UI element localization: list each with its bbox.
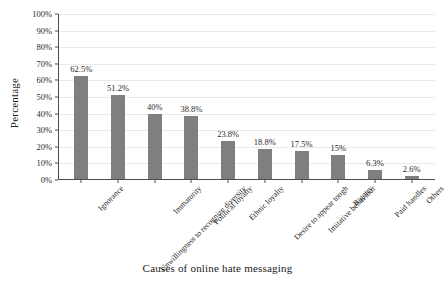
x-axis-category-label: Immaturity (171, 184, 203, 216)
bar[interactable] (74, 76, 88, 180)
bar-group[interactable]: 62.5% (63, 14, 100, 180)
bar-group[interactable]: 38.8% (173, 14, 210, 180)
y-axis-tick-label: 50% (6, 92, 58, 102)
y-axis-tick-label: 40% (6, 109, 58, 119)
bar-group[interactable]: 15% (320, 14, 357, 180)
bar[interactable] (148, 114, 162, 180)
bar-value-label: 6.3% (366, 158, 384, 168)
x-axis-line (58, 179, 435, 180)
y-axis-tick-label: 70% (6, 59, 58, 69)
y-axis-tick-label: 10% (6, 158, 58, 168)
plot-area: 0%10%20%30%40%50%60%70%80%90%100% 62.5%5… (58, 14, 435, 180)
bar-value-label: 38.8% (180, 104, 202, 114)
bar[interactable] (221, 141, 235, 181)
y-axis-tick-label: 100% (6, 9, 58, 19)
bar-group[interactable]: 17.5% (283, 14, 320, 180)
x-axis-category-label: Others (424, 184, 445, 205)
y-axis-tick-label: 0% (6, 175, 58, 185)
y-axis-tick-label: 80% (6, 42, 58, 52)
bar-group[interactable]: 18.8% (247, 14, 284, 180)
y-axis-line (58, 14, 59, 180)
x-axis-category-label: Ignorance (97, 184, 126, 213)
y-axis-tick-label: 90% (6, 26, 58, 36)
bar-value-label: 40% (147, 102, 163, 112)
bar[interactable] (184, 116, 198, 180)
bar-value-label: 15% (330, 143, 346, 153)
bar-group[interactable]: 40% (136, 14, 173, 180)
bar-group[interactable]: 51.2% (100, 14, 137, 180)
x-axis-title: Causes of online hate messaging (0, 262, 435, 274)
bar[interactable] (258, 149, 272, 180)
bar[interactable] (295, 151, 309, 180)
bar-value-label: 2.6% (403, 164, 421, 174)
bar[interactable] (111, 95, 125, 180)
y-axis-tick-label: 30% (6, 125, 58, 135)
bar[interactable] (331, 155, 345, 180)
bar-group[interactable]: 2.6% (393, 14, 430, 180)
bar-group[interactable]: 6.3% (357, 14, 394, 180)
y-axis-tick-label: 60% (6, 75, 58, 85)
x-axis-category-labels: IgnoranceUnwillingness to recognize dive… (58, 182, 435, 258)
bar-value-label: 51.2% (107, 83, 129, 93)
bar-group[interactable]: 23.8% (210, 14, 247, 180)
bar-value-label: 17.5% (291, 139, 313, 149)
bar-value-label: 18.8% (254, 137, 276, 147)
bar-value-label: 62.5% (70, 64, 92, 74)
bar-value-label: 23.8% (217, 129, 239, 139)
x-axis-category-label: Paid handles (393, 184, 428, 219)
y-axis-tick-label: 20% (6, 142, 58, 152)
